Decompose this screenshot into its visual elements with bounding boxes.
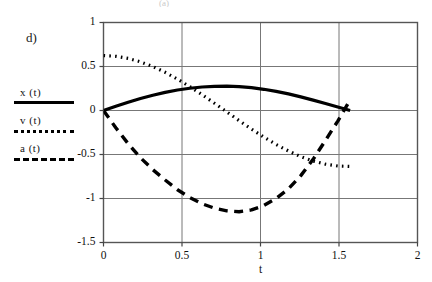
x-tick-label: 1 [247, 249, 275, 261]
series-solid [104, 86, 351, 110]
y-tick-label: -1.5 [62, 235, 96, 247]
figure-panel: (a) d) x (t) v (t) a (t) 10.50-0.5-1-1.5… [0, 0, 432, 282]
series-dashed [104, 100, 351, 212]
gridlines [104, 23, 418, 243]
x-tick-label: 0 [90, 249, 118, 261]
x-tick-label: 2 [404, 249, 432, 261]
plot-area: 10.50-0.5-1-1.5 00.511.52 t [0, 0, 432, 282]
y-tick-label: 0 [62, 103, 96, 115]
y-tick-label: 0.5 [62, 59, 96, 71]
x-tick-label: 0.5 [168, 249, 196, 261]
x-tick-label: 1.5 [325, 249, 353, 261]
axis-tick-marks [100, 23, 418, 247]
y-tick-label: -0.5 [62, 147, 96, 159]
x-axis-title: t [251, 263, 271, 275]
y-tick-label: -1 [62, 191, 96, 203]
data-series-layer [104, 56, 351, 212]
series-dotted [104, 56, 351, 167]
y-tick-label: 1 [62, 15, 96, 27]
